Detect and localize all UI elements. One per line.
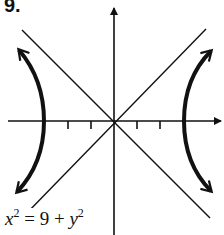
right-branch-upper [184, 51, 211, 121]
equation-y-var: y [69, 208, 77, 229]
hyperbola-graph [0, 0, 224, 235]
equation-y-exponent: 2 [78, 206, 84, 220]
hyperbola-figure: 9. x2 = 9 + y2 [0, 0, 224, 235]
equation-label: x2 = 9 + y2 [5, 208, 86, 230]
left-branch-upper [19, 50, 44, 121]
asymptote-y-equals-x [24, 29, 206, 216]
right-branch-lower [184, 121, 211, 191]
left-branch-lower [17, 121, 44, 192]
equation-middle: = 9 + [19, 208, 69, 229]
problem-number: 9. [4, 0, 21, 17]
